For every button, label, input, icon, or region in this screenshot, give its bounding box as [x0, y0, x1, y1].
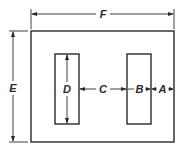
dimension-e: E [9, 31, 28, 142]
arrowhead [151, 87, 156, 91]
label-e: E [9, 82, 17, 94]
dimension-c: C [79, 83, 127, 95]
arrowhead [11, 31, 15, 37]
arrowhead [65, 54, 69, 60]
label-d: D [63, 83, 71, 95]
dimension-f: F [31, 8, 174, 29]
dimension-a: A [151, 83, 174, 95]
arrowhead [79, 87, 85, 91]
arrowhead [31, 12, 37, 16]
arrowhead [65, 118, 69, 124]
arrowhead [169, 87, 174, 91]
arrowhead [146, 87, 151, 91]
label-f: F [100, 8, 107, 20]
core-diagram: F E D C B A [0, 0, 186, 157]
label-a: A [158, 83, 167, 95]
arrowhead [168, 12, 174, 16]
label-c: C [99, 83, 108, 95]
dimension-b: B [128, 83, 151, 95]
arrowhead [121, 87, 127, 91]
arrowhead [11, 136, 15, 142]
dimension-d: D [63, 54, 71, 124]
label-b: B [136, 83, 144, 95]
